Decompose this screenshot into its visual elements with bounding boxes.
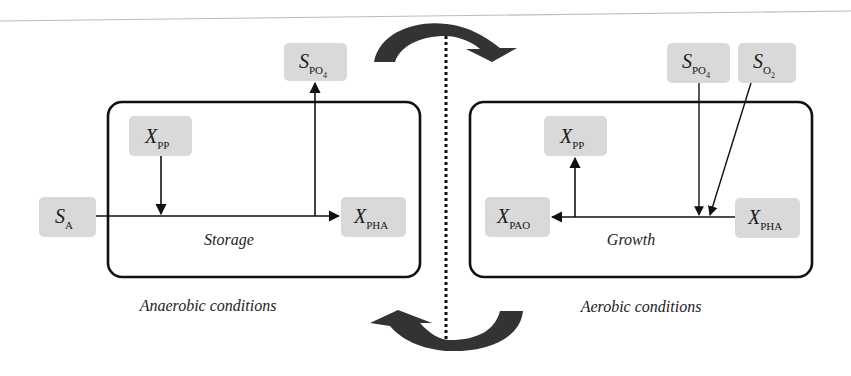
process-label-storage: Storage xyxy=(204,231,254,249)
node-main: S xyxy=(753,50,763,72)
node-s-a: SA xyxy=(39,197,96,237)
node-x-pao: XPAO xyxy=(485,197,550,237)
diagram-canvas: SA XPP SPO4 XPHA Storage Anaerobic condi… xyxy=(0,0,851,376)
node-s-po4-left: SPO4 xyxy=(284,43,347,81)
node-x-pp-right: XPP xyxy=(544,116,607,156)
node-x-pha-left: XPHA xyxy=(341,197,406,237)
node-subsub: 4 xyxy=(323,71,327,80)
node-sub: PHA xyxy=(760,220,782,232)
node-sub: PO xyxy=(309,64,323,76)
node-main: X xyxy=(747,206,761,228)
node-sub: PO xyxy=(692,64,706,76)
node-main: S xyxy=(55,205,65,227)
right-cell-boundary xyxy=(470,102,812,277)
top-rule xyxy=(0,11,851,21)
node-sub: PP xyxy=(157,139,169,151)
process-label-growth: Growth xyxy=(607,231,655,248)
condition-label-aerobic: Aerobic conditions xyxy=(580,298,702,315)
node-subsub: 4 xyxy=(706,71,710,80)
node-main: X xyxy=(353,205,367,227)
node-s-po4-right: SPO4 xyxy=(667,43,730,83)
node-x-pp-left: XPP xyxy=(129,116,192,156)
node-x-pha-right: XPHA xyxy=(735,198,800,238)
node-s-o2: SO2 xyxy=(738,43,796,83)
node-sub: A xyxy=(65,219,73,231)
node-main: X xyxy=(496,205,510,227)
node-sub: PHA xyxy=(366,219,388,231)
node-sub: O xyxy=(763,64,771,76)
condition-label-anaerobic: Anaerobic conditions xyxy=(139,297,277,314)
node-sub: PAO xyxy=(509,219,530,231)
node-subsub: 2 xyxy=(771,71,775,80)
node-sub: PP xyxy=(572,139,584,151)
node-main: S xyxy=(682,50,692,72)
node-main: S xyxy=(299,50,309,72)
node-main: X xyxy=(144,125,158,147)
node-main: X xyxy=(559,125,573,147)
